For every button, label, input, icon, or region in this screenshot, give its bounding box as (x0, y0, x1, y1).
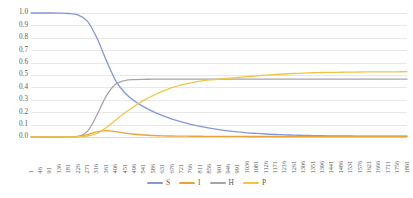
x-axis-tick-label: 586 (149, 164, 155, 173)
x-axis-tick-label: 1216 (281, 161, 287, 173)
x-axis-tick-label: 1666 (375, 161, 381, 173)
x-axis-tick-label: 1576 (356, 161, 362, 173)
plot-wrapper: 1.00.90.80.70.60.50.40.30.20.10.0 146911… (0, 0, 413, 198)
x-axis-tick-label: 1801 (403, 161, 409, 173)
y-axis-tick-label: 1.0 (19, 9, 28, 16)
plot-area (31, 13, 407, 137)
x-axis-tick-label: 1756 (394, 161, 400, 173)
series-line-h (31, 79, 407, 137)
legend-color-swatch (243, 182, 259, 184)
legend-item-s[interactable]: S (147, 179, 170, 187)
x-axis-tick-label: 1711 (384, 161, 390, 173)
chart-container: 1.00.90.80.70.60.50.40.30.20.10.0 146911… (0, 0, 413, 198)
y-axis-tick-label: 0.2 (19, 109, 28, 116)
legend-item-i[interactable]: I (179, 179, 200, 187)
y-axis-tick-label: 0.8 (19, 34, 28, 41)
x-axis-tick-label: 226 (74, 164, 80, 173)
x-axis-tick-label: 946 (225, 164, 231, 173)
x-axis-tick-label: 1396 (319, 161, 325, 173)
x-axis-tick-label: 1036 (243, 161, 249, 173)
x-axis-tick-label: 271 (84, 164, 90, 173)
y-axis-tick-label: 0.1 (19, 121, 28, 128)
x-axis-tick-label: 361 (102, 164, 108, 173)
y-axis-tick-label: 0.9 (19, 22, 28, 29)
x-axis: 1469113618122627131636140645149654158663… (31, 139, 407, 173)
chart-legend: SIHP (0, 176, 413, 190)
x-axis-tick-label: 1621 (366, 161, 372, 173)
x-axis-tick-label: 991 (234, 164, 240, 173)
x-axis-tick-label: 1531 (347, 161, 353, 173)
legend-label: I (198, 179, 200, 187)
x-axis-tick-label: 856 (206, 164, 212, 173)
x-axis-tick-label: 1126 (262, 161, 268, 173)
y-axis-tick-label: 0.3 (19, 96, 28, 103)
legend-label: S (166, 179, 170, 187)
legend-item-h[interactable]: H (210, 179, 234, 187)
x-axis-tick-label: 811 (196, 164, 202, 173)
x-axis-tick-label: 406 (112, 164, 118, 173)
x-axis-tick-label: 1081 (253, 161, 259, 173)
x-axis-tick-label: 1351 (309, 161, 315, 173)
x-axis-tick-label: 1441 (328, 161, 334, 173)
legend-color-swatch (210, 182, 226, 184)
x-axis-tick-label: 676 (168, 164, 174, 173)
legend-item-p[interactable]: P (243, 179, 266, 187)
series-line-s (31, 13, 407, 136)
y-axis-tick-label: 0.4 (19, 84, 28, 91)
x-axis-tick-label: 541 (140, 164, 146, 173)
legend-label: H (229, 179, 234, 187)
x-axis-tick-label: 766 (187, 164, 193, 173)
x-axis-tick-label: 1486 (337, 161, 343, 173)
legend-color-swatch (147, 182, 163, 184)
y-axis: 1.00.90.80.70.60.50.40.30.20.10.0 (0, 0, 30, 141)
x-axis-tick-label: 46 (37, 167, 43, 173)
x-axis-tick-label: 901 (215, 164, 221, 173)
x-axis-tick-label: 136 (55, 164, 61, 173)
y-axis-tick-label: 0.0 (19, 133, 28, 140)
y-axis-tick-label: 0.6 (19, 59, 28, 66)
x-axis-tick-label: 1171 (272, 161, 278, 173)
x-axis-tick-label: 1 (27, 170, 33, 173)
y-axis-tick-label: 0.5 (19, 71, 28, 78)
series-lines (31, 13, 407, 137)
x-axis-tick-label: 1306 (300, 161, 306, 173)
legend-color-swatch (179, 182, 195, 184)
x-axis-tick-label: 181 (65, 164, 71, 173)
x-axis-tick-label: 631 (159, 164, 165, 173)
x-axis-tick-label: 91 (46, 167, 52, 173)
x-axis-tick-label: 721 (178, 164, 184, 173)
x-axis-tick-label: 496 (131, 164, 137, 173)
series-line-p (31, 72, 407, 137)
x-axis-tick-label: 316 (93, 164, 99, 173)
x-axis-tick-label: 1261 (290, 161, 296, 173)
y-axis-tick-label: 0.7 (19, 47, 28, 54)
legend-label: P (262, 179, 266, 187)
x-axis-tick-label: 451 (121, 164, 127, 173)
